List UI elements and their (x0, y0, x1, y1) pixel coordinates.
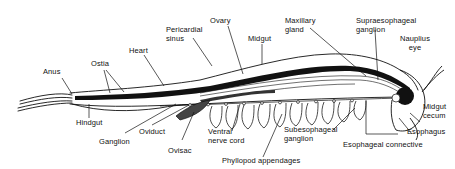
label-nauplius-eye: Nauplius eye (400, 35, 430, 52)
label-midgut: Midgut (248, 35, 271, 44)
label-heart: Heart (129, 47, 148, 56)
label-ganglion: Ganglion (99, 138, 130, 147)
label-oviduct: Oviduct (139, 128, 165, 137)
label-esophagus: Esophagus (407, 128, 445, 137)
dorsal-outline (70, 54, 418, 93)
label-pericardial-sinus: Pericardial sinus (166, 26, 203, 43)
label-ventral-nerve-cord: Ventral nerve cord (208, 128, 244, 145)
label-midgut-cecum: Midgut cecum (423, 103, 446, 120)
label-supraesophageal-ganglion: Supraesophageal ganglion (356, 17, 416, 34)
label-ostia: Ostia (91, 60, 109, 69)
label-phyllopod-appendages: Phyllopod appendages (222, 157, 300, 166)
label-ovisac: Ovisac (168, 147, 192, 156)
anatomy-diagram: Anus Ostia Heart Pericardial sinus Ovary… (0, 0, 455, 169)
label-anus: Anus (43, 68, 61, 77)
label-subesophageal-ganglion: Subesophageal ganglion (284, 126, 337, 143)
label-maxillary-gland: Maxillary gland (285, 17, 316, 34)
label-hindgut: Hindgut (76, 119, 103, 128)
label-esophageal-connective: Esophageal connective (343, 141, 423, 150)
label-ovary: Ovary (210, 17, 231, 26)
ovisac-shape (176, 100, 210, 120)
